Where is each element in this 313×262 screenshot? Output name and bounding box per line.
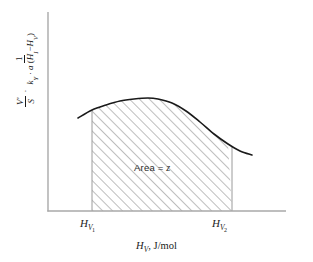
- area-annotation: Area = z: [134, 162, 170, 173]
- x-axis-label-base: H: [136, 240, 144, 251]
- x-tick-label-hv1-base: H: [80, 217, 88, 229]
- x-axis-label: HV, J/mol: [0, 240, 313, 251]
- x-tick-label-hv1-sub2: 1: [92, 227, 95, 233]
- x-tick-label-hv2-sub2: 2: [224, 227, 227, 233]
- shaded-area: [92, 98, 232, 211]
- x-tick-label-hv1: HV1: [80, 217, 96, 229]
- area-annotation-value: z: [166, 162, 170, 173]
- x-axis-label-units: , J/mol: [148, 240, 177, 251]
- chart-figure: V' S · 1 kY·a (HI−HV) HV1 HV2 HV, J/mol …: [0, 0, 313, 262]
- area-annotation-prefix: Area =: [134, 162, 166, 173]
- x-axis-label-subscript: V: [144, 245, 149, 254]
- x-tick-label-hv2-base: H: [212, 217, 220, 229]
- plot-area: [0, 0, 313, 262]
- x-tick-label-hv2: HV2: [212, 217, 228, 229]
